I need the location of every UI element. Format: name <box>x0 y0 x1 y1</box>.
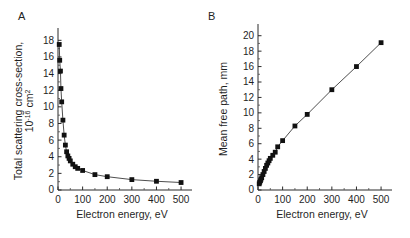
y-tick-label: 8 <box>248 123 254 134</box>
y-tick-label: 6 <box>48 135 54 146</box>
panel-a: A 0246810121416180100200300400500Electro… <box>0 0 205 238</box>
data-point-marker <box>61 118 66 123</box>
data-point-marker <box>63 143 68 148</box>
data-point-marker <box>293 124 298 129</box>
y-tick-label: 10 <box>243 107 255 118</box>
data-point-marker <box>275 144 280 149</box>
data-point-marker <box>105 174 110 179</box>
y-tick-label: 16 <box>243 61 255 72</box>
y-tick-label: 16 <box>43 51 55 62</box>
data-point-marker <box>154 179 159 184</box>
y-tick-label: 12 <box>43 85 55 96</box>
data-point-marker <box>62 133 67 138</box>
panel-b-plot: 024681012141618200100200300400500Electro… <box>205 0 410 238</box>
y-tick-label: 2 <box>48 168 54 179</box>
x-axis-title: Electron energy, eV <box>276 208 367 220</box>
data-point-marker <box>80 168 85 173</box>
data-series-line <box>59 44 181 182</box>
data-point-marker <box>329 87 334 92</box>
x-tick-label: 400 <box>348 194 365 205</box>
data-point-marker <box>305 112 310 117</box>
x-tick-label: 100 <box>74 194 91 205</box>
y-axis-title-line2: 10-16 cm2 <box>23 90 35 133</box>
x-tick-label: 300 <box>124 194 141 205</box>
y-axis-title-base: 10 <box>23 120 35 132</box>
data-point-marker <box>179 180 184 185</box>
y-tick-label: 0 <box>248 184 254 195</box>
y-tick-label: 4 <box>48 151 54 162</box>
y-tick-label: 18 <box>243 46 255 57</box>
data-point-marker <box>58 69 63 74</box>
panel-a-plot: 0246810121416180100200300400500Electron … <box>0 0 205 238</box>
data-point-marker <box>129 177 134 182</box>
x-tick-label: 500 <box>173 194 190 205</box>
y-axis-title-unit-exponent: 2 <box>24 90 31 94</box>
y-tick-label: 18 <box>43 35 55 46</box>
x-tick-label: 300 <box>324 194 341 205</box>
data-point-marker <box>354 64 359 69</box>
x-tick-label: 0 <box>55 194 61 205</box>
data-point-marker <box>93 172 98 177</box>
data-point-marker <box>75 166 80 171</box>
y-tick-label: 2 <box>248 169 254 180</box>
x-tick-label: 500 <box>373 194 390 205</box>
y-tick-label: 8 <box>48 118 54 129</box>
data-point-marker <box>57 58 62 63</box>
y-axis-title-unit: cm <box>23 93 35 110</box>
y-tick-label: 6 <box>248 138 254 149</box>
data-point-marker <box>64 149 69 154</box>
y-tick-label: 12 <box>243 92 255 103</box>
y-tick-label: 0 <box>48 184 54 195</box>
y-tick-label: 10 <box>43 101 55 112</box>
y-tick-label: 20 <box>243 30 255 41</box>
data-point-marker <box>59 86 64 91</box>
data-point-marker <box>273 150 278 155</box>
y-tick-label: 4 <box>248 154 254 165</box>
x-tick-label: 200 <box>99 194 116 205</box>
data-point-marker <box>379 40 384 45</box>
y-axis-title-exponent: -16 <box>24 110 31 120</box>
data-point-marker <box>280 138 285 143</box>
data-series-line <box>259 43 381 184</box>
y-tick-label: 14 <box>243 76 255 87</box>
panel-b: B 024681012141618200100200300400500Elect… <box>205 0 410 238</box>
data-point-marker <box>57 42 62 47</box>
x-axis-title: Electron energy, eV <box>76 208 167 220</box>
x-tick-label: 400 <box>148 194 165 205</box>
x-tick-label: 100 <box>274 194 291 205</box>
data-point-marker <box>59 99 64 104</box>
figure-container: A 0246810121416180100200300400500Electro… <box>0 0 410 238</box>
x-tick-label: 200 <box>299 194 316 205</box>
x-tick-label: 0 <box>255 194 261 205</box>
y-axis-title: Mean free path, mm <box>217 62 229 156</box>
y-tick-label: 14 <box>43 68 55 79</box>
